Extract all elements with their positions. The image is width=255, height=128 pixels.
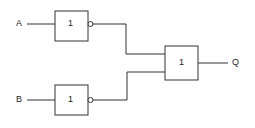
gate-b-output-wire [93,72,165,100]
circuit-wires [0,0,255,128]
gate-a-inverter-bubble [88,22,93,27]
gate-out-symbol: 1 [179,58,184,67]
gate-b-inverter-bubble [88,98,93,103]
gate-a-symbol: 1 [68,19,73,28]
output-q-label: Q [232,58,239,67]
gate-b-symbol: 1 [68,95,73,104]
gate-a-output-wire [93,24,165,54]
input-a-label: A [16,19,22,28]
input-b-label: B [16,95,22,104]
logic-diagram: A 1 B 1 1 Q [0,0,255,128]
